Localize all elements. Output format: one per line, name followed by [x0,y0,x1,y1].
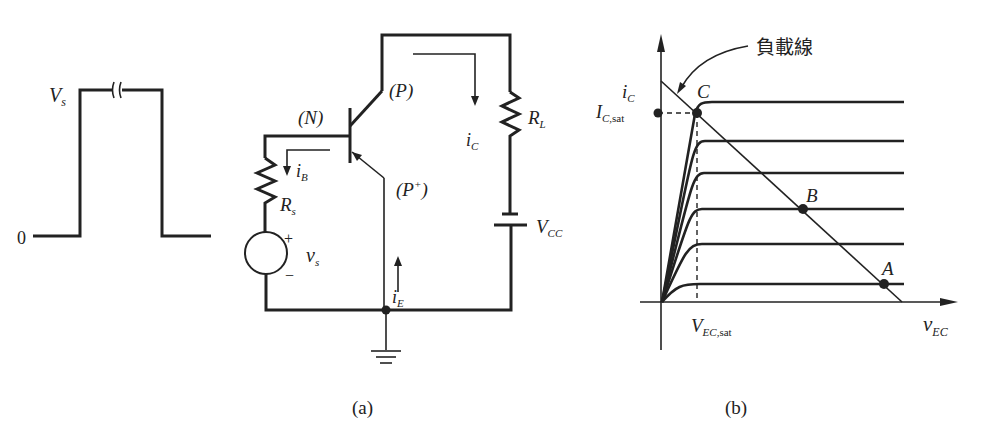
point-a-label: A [880,258,894,279]
base-region-label: (N) [298,107,323,129]
y-axis-arrow-icon [657,34,665,52]
source-voltage-label: vs [306,244,319,268]
point-b-label: B [806,185,818,206]
pulse-low-label: 0 [17,228,26,248]
collector-region-label: (P) [389,80,413,102]
panel-a-caption: (a) [352,397,373,419]
source-plus-label: + [284,230,293,247]
emitter-current-arrow-icon [394,256,402,266]
source-resistor-label: Rs [279,194,296,217]
voltage-source-icon [245,232,287,274]
operating-point-a [879,279,889,289]
x-axis-arrow-icon [940,298,958,306]
input-pulse-waveform: Vs 0 [17,82,211,248]
source-resistor [257,158,275,232]
pulse-high-label: Vs [49,84,66,109]
base-current-arrow-icon [283,166,291,176]
panel-b-caption: (b) [725,397,747,419]
bjt-circuit: (N) (P) (P+) iB iC iE Rs RL vs + − VCC (… [245,35,563,419]
load-line-label: 負載線 [756,36,813,58]
ic-sat-label: IC,sat [595,102,624,124]
vec-sat-label: VEC,sat [691,315,732,338]
figure-canvas: Vs 0 [0,0,992,443]
supply-voltage-label: VCC [536,216,563,239]
load-resistor-label: RL [527,107,546,130]
output-characteristics-plot: C B A 負載線 iC vEC IC,sat VEC,sat (b) [595,34,958,419]
base-current-label: iB [296,161,308,183]
x-axis-label: vEC [923,312,949,339]
collector-current-arrow-icon [471,96,479,106]
annotation-arrow-icon [677,82,686,94]
source-minus-label: − [285,267,294,284]
emitter-region-label: (P+) [396,178,428,201]
y-axis-label: iC [622,81,635,104]
operating-point-c [692,108,702,118]
collector-current-label: iC [466,130,479,152]
point-c-label: C [697,81,710,102]
load-resistor [502,92,519,215]
